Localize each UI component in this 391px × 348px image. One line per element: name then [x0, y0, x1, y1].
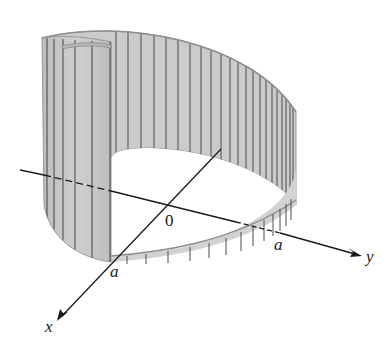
origin-label: 0 [165, 212, 174, 229]
a-label-y-axis: a [274, 236, 283, 253]
y-axis-outer [280, 233, 355, 254]
cylinder-diagram [0, 0, 391, 348]
y-axis-back-solid [20, 170, 44, 175]
a-label-x-axis: a [110, 263, 119, 280]
x-axis-label: x [45, 318, 53, 335]
y-axis-label: y [366, 248, 374, 265]
